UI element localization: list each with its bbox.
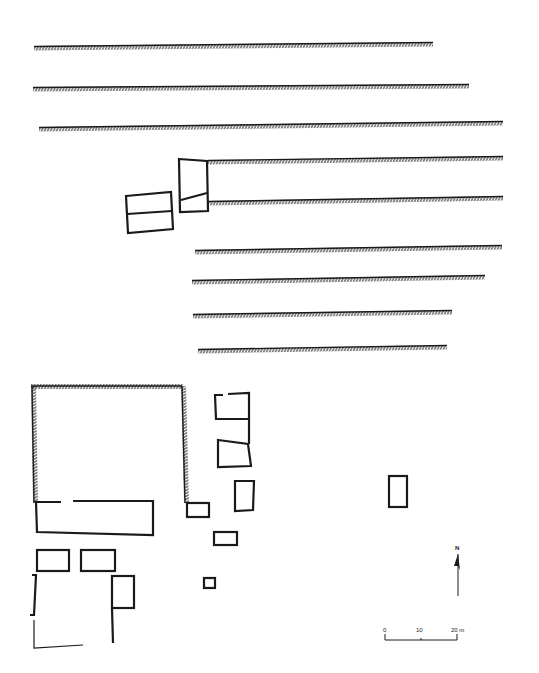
large-enclosure xyxy=(31,384,189,503)
building-tower xyxy=(179,159,208,212)
hatched-wall xyxy=(195,245,502,254)
hatched-wall xyxy=(33,84,469,91)
scale-bar: 0 10 20 m xyxy=(383,627,464,640)
site-plan: N 0 10 20 m xyxy=(0,0,539,673)
scale-label-10: 10 xyxy=(416,627,423,633)
long-building xyxy=(36,501,153,535)
scale-label-20: 20 m xyxy=(451,627,464,633)
hatched-wall xyxy=(208,156,503,164)
room-f xyxy=(204,578,215,588)
hatched-wall xyxy=(192,275,485,284)
room-i xyxy=(112,576,134,608)
north-label: N xyxy=(455,545,459,551)
upper-structures xyxy=(126,159,208,233)
room-small-a xyxy=(187,503,209,517)
building-left-divider xyxy=(127,211,172,214)
hatched-wall xyxy=(39,121,503,131)
lower-structures xyxy=(30,393,407,643)
hatched-wall xyxy=(34,42,433,50)
hatched-wall xyxy=(198,345,447,353)
room-g xyxy=(37,550,69,571)
room-d xyxy=(235,481,254,511)
hatched-wall xyxy=(208,196,503,205)
scale-label-0: 0 xyxy=(383,627,387,633)
hatched-wall xyxy=(193,310,452,318)
room-c xyxy=(218,440,251,467)
north-arrow: N xyxy=(454,545,460,596)
room-h xyxy=(81,550,115,571)
room-b xyxy=(215,393,249,419)
boundary-thin xyxy=(34,620,83,648)
room-east xyxy=(389,476,407,507)
room-e xyxy=(214,532,237,545)
building-tower-divider xyxy=(181,193,207,200)
hatched-walls xyxy=(33,42,503,353)
